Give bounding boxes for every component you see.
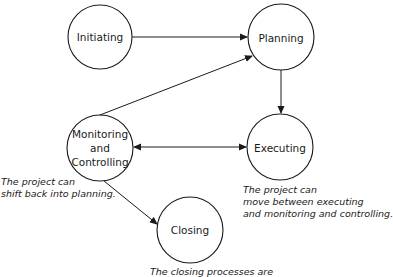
monitoring-label-line1: Monitoring xyxy=(71,127,128,141)
closing-label: Closing xyxy=(171,223,209,237)
monitoring-controlling-label: Monitoring and Controlling xyxy=(71,127,128,169)
monitoring-note-line1: The project can xyxy=(1,176,116,188)
executing-label: Executing xyxy=(254,141,306,155)
closing-note-line1: The closing processes are xyxy=(150,266,273,277)
monitoring-label-line2: and xyxy=(71,141,128,155)
closing-note: The closing processes are xyxy=(150,266,273,277)
monitoring-note: The project can shift back into planning… xyxy=(1,176,116,200)
executing-note-line3: and monitoring and controlling. xyxy=(243,208,393,220)
planning-label: Planning xyxy=(258,31,303,45)
arrow-monitoring-to-planning xyxy=(100,56,252,115)
initiating-label: Initiating xyxy=(77,30,124,44)
executing-note-line2: move between executing xyxy=(243,196,393,208)
monitoring-label-line3: Controlling xyxy=(71,155,128,169)
executing-note-line1: The project can xyxy=(243,184,393,196)
monitoring-note-line2: shift back into planning. xyxy=(1,188,116,200)
executing-note: The project can move between executing a… xyxy=(243,184,393,220)
